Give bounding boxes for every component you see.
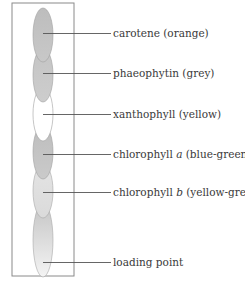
label-xanthophyll-text: xanthophyll (yellow) bbox=[113, 108, 221, 120]
label-chlorophyll-b-pre: chlorophyll bbox=[113, 186, 176, 198]
label-loading-point: loading point bbox=[113, 256, 183, 268]
label-chlorophyll-a-post: (blue-green) bbox=[182, 148, 245, 160]
label-carotene-text: carotene (orange) bbox=[113, 27, 209, 39]
label-carotene: carotene (orange) bbox=[113, 27, 209, 39]
label-chlorophyll-b-letter: b bbox=[176, 186, 183, 198]
label-xanthophyll: xanthophyll (yellow) bbox=[113, 108, 221, 120]
label-phaeophytin: phaeophytin (grey) bbox=[113, 67, 214, 79]
label-chlorophyll-a: chlorophyll a (blue-green) bbox=[113, 148, 245, 160]
chromatogram-diagram bbox=[0, 0, 245, 290]
label-loading-point-text: loading point bbox=[113, 256, 183, 268]
label-chlorophyll-b-post: (yellow-green) bbox=[183, 186, 245, 198]
label-phaeophytin-text: phaeophytin (grey) bbox=[113, 67, 214, 79]
label-chlorophyll-a-pre: chlorophyll bbox=[113, 148, 176, 160]
spot-carotene bbox=[33, 8, 53, 62]
label-chlorophyll-b: chlorophyll b (yellow-green) bbox=[113, 186, 245, 198]
